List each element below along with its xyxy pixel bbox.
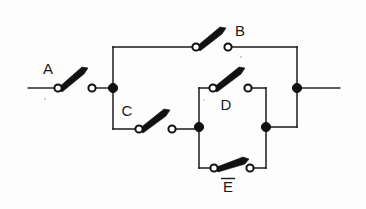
left-main-junction-dot <box>108 83 117 92</box>
switch-a[interactable]: A <box>43 60 96 92</box>
junction-dots <box>108 83 301 131</box>
speck-3 <box>203 99 205 101</box>
switch-d-lever[interactable] <box>213 67 245 92</box>
switch-a-right-terminal[interactable] <box>88 84 95 91</box>
switch-d-left-terminal[interactable] <box>209 84 216 91</box>
switch-c-right-terminal[interactable] <box>168 125 175 132</box>
switch-a-left-terminal[interactable] <box>54 84 61 91</box>
speck-2 <box>240 56 242 58</box>
speck-1 <box>44 98 46 100</box>
switch-a-label: A <box>43 60 53 77</box>
switch-e-left-terminal[interactable] <box>210 164 217 171</box>
switch-e-label: E <box>223 178 233 195</box>
circuit-schematic-canvas: A B C D E <box>0 0 366 209</box>
switch-e-lever[interactable] <box>214 157 249 172</box>
switch-d-label: D <box>221 96 232 113</box>
switch-c-left-terminal[interactable] <box>135 125 142 132</box>
switch-d-right-terminal[interactable] <box>244 84 251 91</box>
switch-b-left-terminal[interactable] <box>192 43 199 50</box>
switch-b-right-terminal[interactable] <box>224 43 231 50</box>
switch-circuit-diagram: A B C D E <box>0 0 366 209</box>
switch-e[interactable]: E <box>210 157 253 195</box>
switch-d[interactable]: D <box>209 67 251 113</box>
switch-c-lever[interactable] <box>139 109 170 133</box>
switch-e-right-terminal[interactable] <box>246 164 253 171</box>
switch-c-label: C <box>122 102 133 119</box>
inner-right-junction-dot <box>261 122 270 131</box>
right-main-junction-dot <box>292 83 301 92</box>
de-parallel-block-wires <box>199 88 297 168</box>
switch-b-label: B <box>235 22 245 39</box>
inner-left-junction-dot <box>194 122 203 131</box>
b-branch-wires <box>113 47 297 88</box>
